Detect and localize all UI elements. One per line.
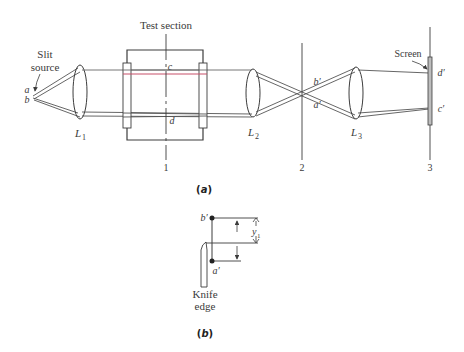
rays-l3-to-screen [358,70,429,117]
lens-l2 [246,69,260,117]
plane-3-label: 3 [428,162,433,173]
plane-1-label: 1 [164,162,169,173]
source-label: source [31,61,60,73]
lens-l1-subscript: 1 [82,133,86,142]
point-b-prime-dot [210,216,215,221]
lens-l2-subscript: 2 [255,132,259,141]
lens-l2-label: L [247,126,254,138]
point-c-label: c [168,61,173,72]
point-d-prime-label: d′ [437,67,445,78]
lens-l3 [349,67,363,119]
right-window [199,63,207,128]
y1-subscript: 1 [257,232,261,240]
point-a-prime-dot [210,259,215,264]
point-b-prime-label: b′ [313,76,321,87]
b-prime-label: b′ [200,212,208,223]
crossing-beams [256,68,355,119]
lens-l3-label: L [350,126,357,138]
lens-l1 [73,65,87,119]
a-prime-label: a′ [212,265,220,276]
slit-label: Slit [37,48,52,60]
edge-label: edge [195,300,216,312]
screen [428,57,432,125]
point-b-label: b [25,94,30,105]
test-section-box [127,50,203,140]
point-c-prime-label: c′ [438,103,445,114]
left-window [123,63,131,128]
plane-2-label: 2 [300,162,305,173]
screen-label: Screen [394,48,421,59]
screen-arrow-icon [412,61,427,69]
caption-b: (b) [197,328,213,339]
part-b: b′ a′ y 1 Knife edge (b) [192,212,261,339]
part-a: Slit source a b L 1 [25,19,446,195]
caption-a: (a) [196,184,212,195]
source-arrow-icon [35,74,40,91]
schlieren-diagram: Slit source a b L 1 [0,0,464,352]
knife-label: Knife [192,288,217,300]
test-section-label: Test section [140,19,193,31]
lens-l3-subscript: 3 [358,132,362,141]
lens-l1-label: L [74,127,81,139]
knife-edge [201,242,207,287]
point-a-prime-label: a′ [313,99,321,110]
